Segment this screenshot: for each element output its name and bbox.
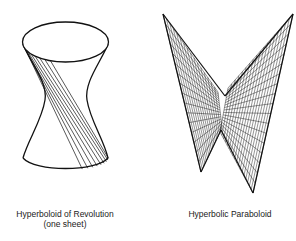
hyperboloid-caption-line2: (one sheet) (0, 219, 130, 229)
figures-canvas (0, 0, 296, 241)
paraboloid-caption: Hyperbolic Paraboloid (165, 209, 295, 219)
paraboloid-caption-line1: Hyperbolic Paraboloid (165, 209, 295, 219)
hyperboloid-caption-line1: Hyperboloid of Revolution (0, 209, 130, 219)
hyperboloid-caption: Hyperboloid of Revolution (one sheet) (0, 209, 130, 229)
hyperboloid-figure (23, 22, 109, 169)
paraboloid-figure (163, 14, 293, 193)
